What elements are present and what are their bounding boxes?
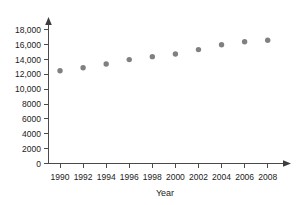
data-point [80,65,85,70]
scatter-chart: 0200040006000800010,00012,00014,00016,00… [0,0,296,205]
x-tick-label: 2006 [235,172,254,182]
x-axis: 1990199219941996199820002002200420062008 [49,160,292,182]
x-tick-label: 2002 [189,172,208,182]
x-tick-label: 1994 [97,172,116,182]
data-point [57,68,62,73]
data-point [103,61,108,66]
x-tick-label: 1996 [120,172,139,182]
y-axis-arrow-icon [45,17,52,25]
x-tick-label: 2000 [166,172,185,182]
y-tick-label: 8000 [22,99,41,109]
y-tick-label: 18,000 [15,25,41,35]
y-tick-group: 0200040006000800010,00012,00014,00016,00… [15,25,49,169]
x-tick-group: 1990199219941996199820002002200420062008 [51,164,278,183]
chart-canvas: 0200040006000800010,00012,00014,00016,00… [0,0,296,205]
x-tick-label: 2004 [212,172,231,182]
data-point [150,54,155,59]
x-axis-arrow-icon [283,160,291,167]
x-tick-label: 1992 [74,172,93,182]
data-point [242,39,247,44]
y-tick-label: 6000 [22,114,41,124]
y-tick-label: 16,000 [15,40,41,50]
y-tick-label: 0 [36,159,41,169]
y-tick-label: 4000 [22,129,41,139]
y-tick-label: 10,000 [15,84,41,94]
data-point [127,57,132,62]
data-point [265,38,270,43]
y-tick-label: 2000 [22,144,41,154]
x-tick-label: 1990 [51,172,70,182]
y-axis: 0200040006000800010,00012,00014,00016,00… [15,17,52,169]
data-point [173,51,178,56]
data-point-group [57,38,270,74]
y-tick-label: 12,000 [15,69,41,79]
x-axis-title: Year [156,188,174,198]
data-point [219,42,224,47]
data-point [196,47,201,52]
y-tick-label: 14,000 [15,55,41,65]
x-tick-label: 2008 [258,172,277,182]
x-tick-label: 1998 [143,172,162,182]
